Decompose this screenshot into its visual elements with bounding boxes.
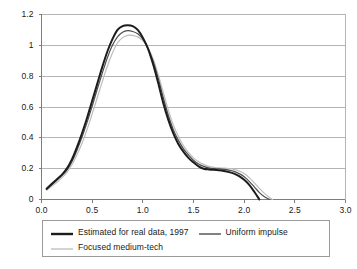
chart-legend: Estimated for real data, 1997 Uniform im…: [42, 220, 330, 257]
x-axis-tick-label: 1.0: [128, 205, 158, 215]
y-axis-tick-label: 0: [6, 194, 34, 204]
y-axis-tick-label: 1.2: [6, 9, 34, 19]
legend-entry-focused-medium-tech[interactable]: Focused medium-tech: [51, 238, 163, 256]
legend-label-focused-medium-tech: Focused medium-tech: [78, 242, 163, 252]
legend-row-bottom: Focused medium-tech: [51, 241, 163, 253]
legend-swatch-focused-medium-tech: [51, 238, 73, 256]
data-series-group: [47, 25, 273, 199]
x-axis-tick-label: 3.0: [331, 205, 357, 215]
x-axis-tick-label: 0.0: [27, 205, 57, 215]
y-axis-tick-label: 0.2: [6, 163, 34, 173]
axis-ticks: [39, 15, 346, 203]
gridlines: [42, 15, 346, 169]
legend-label-estimated-real-data: Estimated for real data, 1997: [78, 227, 189, 237]
x-axis-tick-label: 0.5: [77, 205, 107, 215]
x-axis-tick-label: 2.0: [229, 205, 259, 215]
legend-label-uniform-impulse: Uniform impulse: [226, 227, 288, 237]
chart-container: 00.20.40.60.811.2 0.00.51.01.52.02.53.0 …: [0, 0, 357, 269]
legend-row-top: Estimated for real data, 1997 Uniform im…: [51, 226, 288, 238]
y-axis-tick-label: 0.6: [6, 102, 34, 112]
y-axis-tick-label: 0.8: [6, 71, 34, 81]
y-axis-tick-label: 0.4: [6, 132, 34, 142]
legend-entry-uniform-impulse[interactable]: Uniform impulse: [199, 223, 288, 241]
x-axis-tick-label: 2.5: [280, 205, 310, 215]
y-axis-tick-label: 1: [6, 40, 34, 50]
x-axis-tick-label: 1.5: [179, 205, 209, 215]
legend-swatch-uniform-impulse: [199, 223, 221, 241]
series-line: [47, 25, 260, 199]
